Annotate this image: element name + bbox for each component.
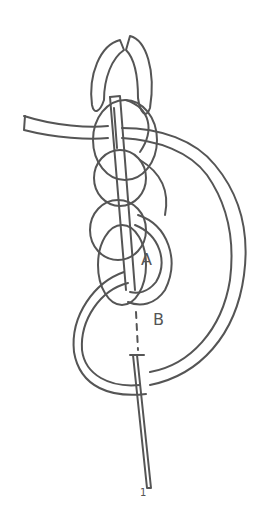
label-a: A [141, 250, 152, 269]
thread-strand [24, 116, 246, 385]
label-bottom-mark: 1 [140, 487, 146, 498]
label-b: B [153, 310, 164, 329]
chain-links [90, 100, 171, 304]
top-loop [91, 36, 152, 114]
chain-stitch-illustration [0, 0, 278, 525]
dashed-line-b [136, 312, 138, 350]
